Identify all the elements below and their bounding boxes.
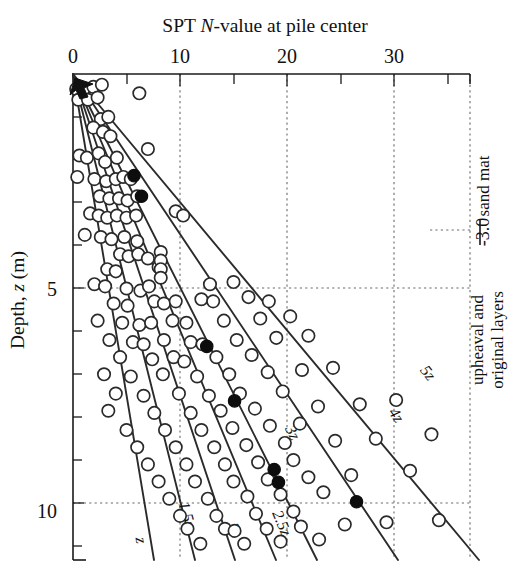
data-point xyxy=(433,514,445,526)
chart-svg: SPT N-value at pile center 0 10 20 30 5 … xyxy=(0,0,521,588)
data-point xyxy=(223,368,235,380)
data-point xyxy=(185,336,197,348)
data-point xyxy=(203,390,215,402)
data-point xyxy=(185,407,197,419)
data-point xyxy=(131,235,143,247)
data-point xyxy=(107,297,119,309)
data-point xyxy=(116,317,128,329)
data-point xyxy=(252,456,264,468)
data-point xyxy=(228,395,240,407)
data-point xyxy=(208,441,220,453)
side-annotations: sand mat -3.0 upheaval and original laye… xyxy=(468,155,507,389)
data-point xyxy=(302,471,314,483)
data-point xyxy=(152,475,164,487)
data-point xyxy=(207,295,219,307)
data-point xyxy=(180,317,192,329)
xtick-label-0: 0 xyxy=(68,45,78,67)
data-point xyxy=(170,441,182,453)
x-ticks xyxy=(127,74,448,86)
data-point xyxy=(263,295,275,307)
data-point xyxy=(214,405,226,417)
data-point xyxy=(227,475,239,487)
annotation-sand-mat: sand mat xyxy=(474,155,493,216)
data-point xyxy=(104,130,116,142)
data-point xyxy=(226,422,238,434)
data-point xyxy=(270,332,282,344)
xtick-label-30: 30 xyxy=(384,45,404,67)
data-point xyxy=(137,390,149,402)
data-point xyxy=(296,364,308,376)
data-point xyxy=(181,523,193,535)
data-point xyxy=(111,151,123,163)
data-point xyxy=(137,338,149,350)
data-point xyxy=(312,400,324,412)
data-point xyxy=(277,385,289,397)
data-point xyxy=(210,510,222,522)
data-point xyxy=(284,310,296,322)
annotation-upheaval-line2: original layers xyxy=(488,291,507,389)
data-point xyxy=(146,353,158,365)
data-point xyxy=(287,454,299,466)
data-point xyxy=(189,475,201,487)
data-points-open xyxy=(70,79,445,550)
data-point xyxy=(240,439,252,451)
data-point xyxy=(245,349,257,361)
data-point xyxy=(88,173,100,185)
data-point xyxy=(155,272,167,284)
data-point xyxy=(120,424,132,436)
trend-label-4z: 4z xyxy=(385,404,408,426)
data-point xyxy=(202,493,214,505)
data-point xyxy=(103,334,115,346)
data-point xyxy=(272,476,284,488)
data-point xyxy=(294,417,306,429)
data-point xyxy=(204,278,216,290)
chart-title-post: -value at pile center xyxy=(213,15,368,36)
data-point xyxy=(158,334,170,346)
data-point xyxy=(274,535,286,547)
trend-label-5z: 5z xyxy=(417,362,440,384)
xtick-label-10: 10 xyxy=(170,45,190,67)
data-point xyxy=(91,91,103,103)
gridlines xyxy=(73,74,470,560)
data-point xyxy=(130,209,142,221)
data-point xyxy=(262,366,274,378)
data-point xyxy=(142,143,154,155)
data-point xyxy=(157,368,169,380)
data-point xyxy=(390,394,402,406)
data-point xyxy=(201,340,213,352)
data-point xyxy=(71,171,83,183)
data-point xyxy=(102,405,114,417)
data-point xyxy=(350,496,362,508)
data-point xyxy=(180,458,192,470)
data-point xyxy=(274,488,286,500)
chart-title-pre: SPT xyxy=(162,15,200,36)
annotation-upheaval-line1: upheaval and xyxy=(468,294,487,385)
data-point xyxy=(302,329,314,341)
y-axis-title-pre: Depth, xyxy=(7,292,28,349)
data-point xyxy=(143,280,155,292)
data-point xyxy=(174,510,186,522)
y-axis-title: Depth, z (m) xyxy=(7,251,29,349)
data-point xyxy=(148,407,160,419)
data-point xyxy=(327,362,339,374)
data-point xyxy=(195,424,207,436)
data-point xyxy=(142,458,154,470)
data-point xyxy=(339,518,351,530)
data-point xyxy=(135,190,147,202)
data-point xyxy=(173,387,185,399)
data-point xyxy=(177,209,189,221)
ytick-label-10: 10 xyxy=(37,500,57,522)
data-point xyxy=(242,291,254,303)
data-point xyxy=(81,151,93,163)
data-point xyxy=(317,486,329,498)
data-point xyxy=(260,523,272,535)
trend-label-z: z xyxy=(132,535,150,546)
data-point xyxy=(191,370,203,382)
chart-title-italic-n: N xyxy=(199,15,214,36)
data-point xyxy=(102,111,114,123)
data-point xyxy=(105,233,117,245)
data-point xyxy=(125,370,137,382)
data-point xyxy=(268,463,280,475)
data-point xyxy=(279,437,291,449)
chart-title: SPT N-value at pile center xyxy=(162,15,368,36)
